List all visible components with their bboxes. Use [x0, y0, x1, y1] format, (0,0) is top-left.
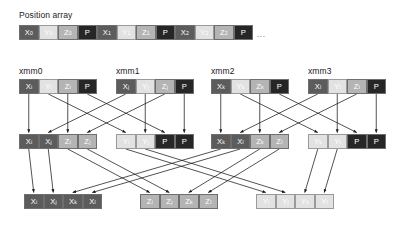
arrow-stage1-2-1: [240, 94, 318, 133]
cell-subscript: 0: [69, 31, 72, 36]
register-xmm1-cell-3: P: [175, 79, 195, 94]
register-xmm3-cell-3: P: [367, 79, 387, 94]
arrow-stage2-1-3: [208, 149, 279, 193]
register-xmm0-cell-2: Zi: [58, 79, 78, 94]
middle-group-0-cell-1: Xj: [39, 134, 59, 149]
cell-label: P: [182, 138, 187, 146]
arrow-stage1-0-4: [48, 94, 126, 133]
register-label-xmm2: xmm2: [211, 66, 235, 76]
arrow-stage2-2-1: [145, 149, 285, 193]
diagram-canvas: Position array ... X0Y0Z0PX1Y1Z1PX2Y2Z2P…: [0, 0, 413, 231]
register-xmm0-cell-0: Xi: [19, 79, 39, 94]
middle-group-0-cell-2: Zi: [58, 134, 78, 149]
middle-group-2-cell-1: Xl: [231, 134, 251, 149]
cell-subscript: k: [190, 200, 193, 205]
cell-subscript: i: [36, 200, 37, 205]
cell-subscript: i: [70, 85, 71, 90]
cell-subscript: j: [55, 200, 56, 205]
bottom-group-0-cell-0: Xi: [24, 194, 44, 209]
cell-subscript: 0: [50, 31, 53, 36]
position-array-label: Position array: [19, 10, 72, 20]
cell-subscript: l: [94, 200, 95, 205]
cell-subscript: k: [222, 140, 225, 145]
arrow-stage1-0-6: [87, 94, 165, 133]
cell-subscript: j: [171, 200, 172, 205]
cell-subscript: j: [89, 140, 90, 145]
middle-group-3-cell-3: P: [367, 134, 387, 149]
arrow-stage1-2-4: [240, 94, 318, 133]
cell-subscript: l: [339, 140, 340, 145]
register-xmm2-cell-3: P: [270, 79, 290, 94]
cell-subscript: j: [287, 200, 288, 205]
cell-subscript: i: [128, 140, 129, 145]
cell-subscript: l: [359, 85, 360, 90]
register-xmm2-cell-2: Zk: [250, 79, 270, 94]
register-label-xmm1: xmm1: [116, 66, 140, 76]
cell-label: P: [374, 138, 379, 146]
register-xmm0-cell-1: Yi: [39, 79, 59, 94]
cell-subscript: i: [31, 140, 32, 145]
arrow-stage2-0-2: [73, 149, 221, 193]
register-xmm1-cell-2: Zj: [155, 79, 175, 94]
position-array-cell-10: Z2: [214, 25, 234, 40]
bottom-group-1-cell-1: Zj: [160, 194, 180, 209]
position-array-cell-8: X2: [175, 25, 195, 40]
cell-label: P: [374, 83, 379, 91]
middle-group-1-cell-0: Yi: [116, 134, 136, 149]
cell-subscript: j: [147, 140, 148, 145]
cell-subscript: j: [167, 85, 168, 90]
register-xmm3-cell-0: Xl: [308, 79, 328, 94]
middle-group-2-cell-2: Zk: [250, 134, 270, 149]
middle-group-2-cell-3: Zl: [270, 134, 290, 149]
cell-subscript: j: [50, 140, 51, 145]
arrow-stage2-0-0: [29, 149, 34, 193]
arrow-stage2-2-0: [126, 149, 266, 193]
arrow-stage1-2-6: [279, 94, 357, 133]
position-array-cell-7: P: [156, 25, 176, 40]
cell-subscript: i: [50, 85, 51, 90]
cell-label: P: [182, 83, 187, 91]
cell-subscript: 2: [206, 31, 209, 36]
cell-subscript: k: [319, 140, 322, 145]
cell-subscript: j: [128, 85, 129, 90]
cell-subscript: l: [210, 200, 211, 205]
cell-subscript: k: [222, 85, 225, 90]
position-array-cell-6: Z1: [136, 25, 156, 40]
cell-label: P: [85, 83, 90, 91]
bottom-group-2-cell-0: Yi: [256, 194, 276, 209]
register-xmm1-cell-1: Yj: [136, 79, 156, 94]
bottom-group-2-cell-2: Yk: [295, 194, 315, 209]
cell-subscript: k: [261, 140, 264, 145]
position-array-cell-4: X1: [97, 25, 117, 40]
middle-group-3-cell-1: Yl: [328, 134, 348, 149]
bottom-group-1-cell-3: Zl: [199, 194, 219, 209]
register-xmm2-cell-1: Yk: [231, 79, 251, 94]
middle-group-3-cell-0: Yk: [308, 134, 328, 149]
cell-label: P: [354, 138, 359, 146]
cell-subscript: j: [147, 85, 148, 90]
cell-subscript: k: [306, 200, 309, 205]
middle-group-1-cell-1: Yj: [136, 134, 156, 149]
arrow-stage1-0-1: [48, 94, 126, 133]
arrow-stage2-1-2: [189, 149, 260, 193]
cell-label: P: [277, 83, 282, 91]
position-array-cell-2: Z0: [58, 25, 78, 40]
cell-label: P: [162, 138, 167, 146]
arrow-stage2-1-0: [68, 149, 150, 193]
middle-group-1-cell-3: P: [175, 134, 195, 149]
bottom-group-0-cell-2: Xk: [63, 194, 83, 209]
register-xmm1-cell-0: Xj: [116, 79, 136, 94]
cell-subscript: l: [242, 140, 243, 145]
register-label-xmm0: xmm0: [19, 66, 43, 76]
cell-subscript: l: [281, 140, 282, 145]
cell-label: P: [241, 29, 246, 37]
bottom-group-2-cell-1: Yj: [276, 194, 296, 209]
position-array-cell-0: X0: [19, 25, 39, 40]
arrow-stage2-2-3: [324, 149, 337, 193]
cell-subscript: 1: [128, 31, 131, 36]
middle-group-0-cell-3: Zj: [78, 134, 98, 149]
position-array-cell-1: Y0: [39, 25, 59, 40]
arrow-stage2-0-3: [92, 149, 240, 193]
cell-subscript: 2: [186, 31, 189, 36]
cell-subscript: i: [152, 200, 153, 205]
